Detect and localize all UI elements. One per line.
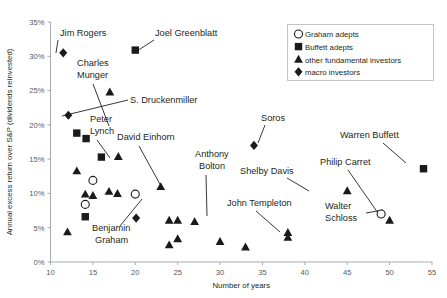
y-axis-title: Annual excess return over S&P (dividends… [5,48,14,235]
y-tick-label: 15% [29,155,44,164]
annotation-label: Warren Buffett [340,130,399,140]
y-tick-label: 0% [34,258,45,267]
y-tick-label: 30% [29,52,44,61]
annotation-label: David Einhorn [117,132,175,142]
x-tick-label: 45 [343,268,351,277]
data-point [81,200,89,208]
annotation-label: Schloss [325,213,358,223]
y-tick-label: 10% [29,189,44,198]
annotation-label: Anthony [195,149,229,159]
data-point [89,176,97,184]
annotation-label: Benjamin [92,223,130,233]
scatter-chart: 10152025303540455055 0%5%10%15%20%25%30%… [0,0,447,298]
x-tick-label: 35 [258,268,266,277]
annotation-label: Bolton [199,161,225,171]
x-tick-label: 25 [173,268,181,277]
x-tick-label: 30 [216,268,224,277]
annotation-label: Jim Rogers [60,28,107,38]
legend-marker-open-circle [295,30,303,38]
y-tick-label: 20% [29,121,44,130]
legend-label: other fundamental investors [305,56,401,65]
x-tick-label: 40 [301,268,309,277]
annotation-label: Philip Carret [320,157,371,167]
data-point [82,135,89,142]
annotation-label: Lynch [90,126,114,136]
y-tick-label: 25% [29,86,44,95]
data-point [131,190,139,198]
data-point [73,129,80,136]
x-tick-label: 15 [89,268,97,277]
annotation-label: Soros [261,113,285,123]
y-tick-label: 35% [29,18,44,27]
annotation-label: S. Druckenmiller [130,95,197,105]
chart-canvas: 10152025303540455055 0%5%10%15%20%25%30%… [0,0,447,298]
annotation-label: Charles [77,58,109,68]
legend-label: macro investors [305,68,360,77]
data-point [98,153,105,160]
data-point [82,213,89,220]
annotation-label: Walter [325,201,351,211]
legend-label: Graham adepts [305,30,359,39]
y-tick-label: 5% [34,224,45,233]
data-point [420,165,427,172]
annotation-label: Shelby Davis [240,166,294,176]
x-tick-label: 50 [385,268,393,277]
annotation-label: Graham [95,235,129,245]
annotation-label: Munger [77,70,108,80]
legend-marker-filled-square [295,43,302,50]
data-point [377,210,385,218]
x-tick-label: 20 [131,268,139,277]
x-axis-title: Number of years [212,281,270,290]
legend-label: Buffett adepts [305,43,353,52]
x-tick-label: 55 [428,268,436,277]
annotation-label: John Templeton [227,198,292,208]
chart-legend: Graham adeptsBuffett adeptsother fundame… [288,25,434,81]
annotation-label: Peter [90,114,112,124]
annotation-label: Joel Greenblatt [155,28,218,38]
data-point [132,46,139,53]
x-tick-label: 10 [46,268,54,277]
